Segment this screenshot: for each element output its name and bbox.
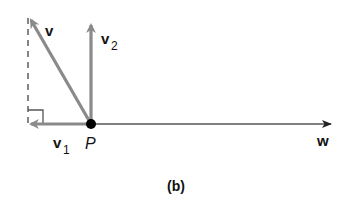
figure-caption: (b) [167,178,185,194]
right-angle-marker [28,110,43,124]
label-v: v [45,22,54,39]
label-v2: v [101,30,110,47]
label-v1-subscript: 1 [63,143,70,157]
point-p [86,119,96,129]
label-w: w [316,132,329,149]
label-v1: v [53,134,62,151]
projection-diagram: v v 2 v 1 P w (b) [0,0,351,219]
label-v2-subscript: 2 [111,39,118,53]
vector-v [31,20,91,124]
label-point-p: P [85,135,96,152]
